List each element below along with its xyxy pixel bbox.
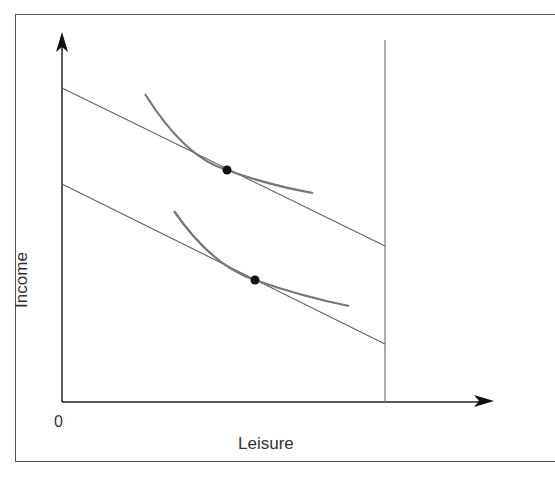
y-axis-label: Income — [12, 252, 32, 308]
x-axis-label: Leisure — [238, 434, 294, 454]
x-axis-arrow-icon — [474, 395, 494, 407]
lower-indifference-curve — [174, 211, 349, 306]
upper-indifference-curve — [145, 94, 313, 193]
origin-label: 0 — [54, 413, 63, 431]
y-axis-label-wrap: Income — [16, 270, 36, 340]
upper-tangency-point — [223, 166, 232, 175]
upper-budget-line — [62, 88, 385, 246]
lower-tangency-point — [251, 276, 260, 285]
